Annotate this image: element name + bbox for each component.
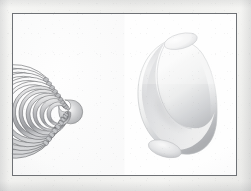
top-bloom [125, 14, 237, 84]
contour-slices-drawing [13, 14, 125, 175]
left-panel [13, 14, 125, 175]
figure-root [0, 0, 251, 191]
shaded-solid-drawing [125, 14, 237, 175]
right-panel [125, 14, 237, 175]
left-light-wash [13, 14, 125, 174]
figure-frame [12, 13, 237, 176]
